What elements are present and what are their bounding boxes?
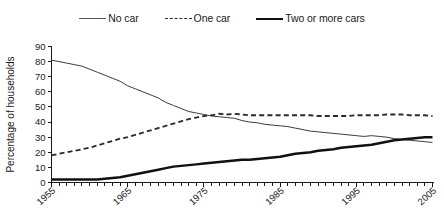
series-line-one-car bbox=[52, 114, 433, 156]
x-tick-label: 1955 bbox=[34, 185, 57, 207]
y-tick-label: 0 bbox=[40, 177, 45, 188]
x-tick-label: 1965 bbox=[110, 185, 133, 207]
plot-area: 0102030405060708090Percentage of househo… bbox=[0, 0, 444, 222]
y-tick-label: 50 bbox=[35, 101, 46, 112]
y-tick-label: 40 bbox=[35, 116, 46, 127]
x-tick-label: 2005 bbox=[415, 185, 438, 207]
y-tick-label: 70 bbox=[35, 71, 46, 82]
y-tick-label: 20 bbox=[35, 147, 46, 158]
x-tick-label: 1985 bbox=[263, 185, 286, 207]
y-tick-label: 80 bbox=[35, 56, 46, 67]
y-tick-label: 60 bbox=[35, 86, 46, 97]
x-tick-label: 1975 bbox=[187, 185, 210, 207]
y-tick-label: 30 bbox=[35, 132, 46, 143]
line-chart: No car One car Two or more cars 01020304… bbox=[0, 0, 444, 222]
y-tick-label: 90 bbox=[35, 41, 46, 52]
y-tick-label: 10 bbox=[35, 162, 46, 173]
x-tick-label: 1995 bbox=[339, 185, 362, 207]
series-line-no-car bbox=[52, 60, 433, 142]
series-line-two-or-more-cars bbox=[52, 137, 433, 179]
y-axis-title: Percentage of households bbox=[5, 56, 16, 172]
